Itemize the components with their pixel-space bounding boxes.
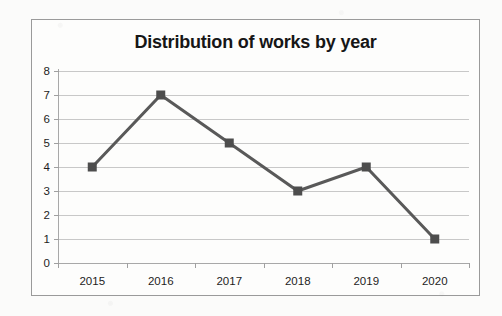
x-axis-label: 2017 xyxy=(216,275,242,287)
chart-title: Distribution of works by year xyxy=(32,32,479,53)
y-axis-label: 8 xyxy=(44,65,50,77)
plot-area: 012345678 201520162017201820192020 xyxy=(58,71,469,263)
y-axis-label: 1 xyxy=(44,233,50,245)
y-axis-label: 0 xyxy=(44,257,50,269)
x-axis-label: 2015 xyxy=(79,275,105,287)
y-axis-label: 7 xyxy=(44,89,50,101)
series-line xyxy=(92,95,435,239)
x-axis-label: 2019 xyxy=(353,275,379,287)
x-axis-tick xyxy=(469,263,470,268)
y-axis-label: 2 xyxy=(44,209,50,221)
chart-frame: Distribution of works by year 012345678 … xyxy=(31,19,480,296)
x-axis-tick xyxy=(332,263,333,268)
data-point-marker xyxy=(430,235,439,244)
y-axis-label: 5 xyxy=(44,137,50,149)
x-axis-tick xyxy=(58,263,59,268)
x-axis-tick xyxy=(195,263,196,268)
data-point-marker xyxy=(293,187,302,196)
y-axis-label: 4 xyxy=(44,161,50,173)
x-axis-label: 2018 xyxy=(285,275,311,287)
y-axis-label: 3 xyxy=(44,185,50,197)
line-series xyxy=(58,71,469,263)
x-axis-label: 2016 xyxy=(148,275,174,287)
data-point-marker xyxy=(362,163,371,172)
y-axis-label: 6 xyxy=(44,113,50,125)
x-axis-tick xyxy=(401,263,402,268)
data-point-marker xyxy=(225,139,234,148)
data-point-marker xyxy=(156,91,165,100)
x-axis-tick xyxy=(264,263,265,268)
x-axis-label: 2020 xyxy=(422,275,448,287)
x-axis-tick xyxy=(127,263,128,268)
data-point-marker xyxy=(88,163,97,172)
